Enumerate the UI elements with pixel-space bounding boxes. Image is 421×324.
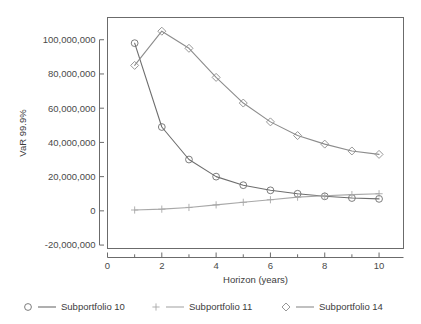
x-tick-label: 0 <box>105 260 110 271</box>
x-tick-label: 8 <box>322 260 327 271</box>
y-tick-label: 100,000,000 <box>43 34 96 45</box>
x-tick-label: 6 <box>268 260 273 271</box>
y-tick-label: -20,000,000 <box>45 239 96 250</box>
y-tick-label: 60,000,000 <box>48 103 96 114</box>
y-tick-label: 40,000,000 <box>48 137 96 148</box>
legend-label: Subportfolio 14 <box>319 301 383 312</box>
x-tick-label: 2 <box>159 260 164 271</box>
var-line-chart: -20,000,000020,000,00040,000,00060,000,0… <box>0 0 421 324</box>
y-tick-label: 20,000,000 <box>48 171 96 182</box>
x-axis-title: Horizon (years) <box>223 274 288 285</box>
y-tick-label: 80,000,000 <box>48 68 96 79</box>
legend-label: Subportfolio 11 <box>189 301 252 312</box>
chart-figure: -20,000,000020,000,00040,000,00060,000,0… <box>0 0 421 324</box>
chart-background <box>0 0 421 324</box>
x-tick-label: 4 <box>213 260 218 271</box>
legend-label: Subportfolio 10 <box>61 301 125 312</box>
x-tick-label: 10 <box>374 260 385 271</box>
y-axis-title: VaR 99.9% <box>17 109 28 157</box>
chart-legend: Subportfolio 10Subportfolio 11Subportfol… <box>25 301 383 312</box>
y-tick-label: 0 <box>90 205 95 216</box>
